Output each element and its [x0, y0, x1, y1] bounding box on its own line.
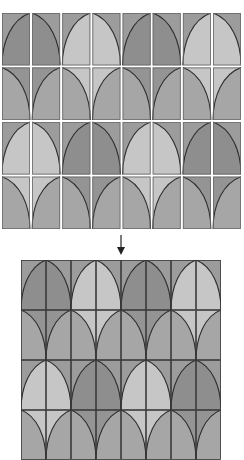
tile-sl-light	[71, 310, 96, 360]
tile-sr-light	[213, 68, 241, 120]
tile-sl-light	[121, 410, 146, 460]
tile-sl-dark	[121, 310, 146, 360]
tile-sr-dark	[92, 177, 120, 229]
tile-sl-dark	[2, 68, 30, 120]
tile-l-light	[183, 13, 211, 65]
tile-r-dark	[92, 122, 120, 174]
tile-l-light	[2, 122, 30, 174]
tile-l-light	[121, 360, 146, 410]
tile-l-light	[171, 260, 196, 310]
tile-sl-dark	[171, 410, 196, 460]
tile-r-dark	[196, 360, 221, 410]
tile-l-dark	[62, 122, 90, 174]
tile-sr-dark	[32, 68, 60, 120]
tile-sr-light	[153, 177, 181, 229]
tile-sl-dark	[71, 410, 96, 460]
down-arrow-icon	[114, 234, 128, 256]
tile-r-light	[92, 13, 120, 65]
tile-l-dark	[171, 360, 196, 410]
tile-sr-light	[196, 310, 221, 360]
tile-sl-dark	[21, 310, 46, 360]
tile-r-light	[213, 13, 241, 65]
tile-sr-light	[32, 177, 60, 229]
tile-r-dark	[96, 360, 121, 410]
tile-l-dark	[121, 260, 146, 310]
tile-sr-dark	[153, 68, 181, 120]
tile-sr-dark	[213, 177, 241, 229]
tile-sl-light	[171, 310, 196, 360]
tile-r-dark	[213, 122, 241, 174]
tile-sr-dark	[46, 310, 71, 360]
tile-sr-light	[96, 310, 121, 360]
tile-sr-dark	[146, 310, 171, 360]
tile-r-light	[96, 260, 121, 310]
tile-l-light	[123, 122, 151, 174]
tile-r-light	[32, 122, 60, 174]
tile-r-light	[46, 360, 71, 410]
tile-l-light	[62, 13, 90, 65]
tile-r-dark	[153, 13, 181, 65]
tile-sl-light	[123, 177, 151, 229]
tile-l-dark	[123, 13, 151, 65]
tile-l-dark	[183, 122, 211, 174]
tile-r-light	[153, 122, 181, 174]
tile-l-dark	[71, 360, 96, 410]
tile-sl-dark	[123, 68, 151, 120]
tile-sr-light	[46, 410, 71, 460]
tile-r-dark	[46, 260, 71, 310]
tile-l-dark	[21, 260, 46, 310]
tile-sl-light	[183, 68, 211, 120]
tile-sl-light	[2, 177, 30, 229]
tile-sr-light	[146, 410, 171, 460]
tile-sr-dark	[96, 410, 121, 460]
tile-r-light	[146, 360, 171, 410]
tile-sl-dark	[183, 177, 211, 229]
tile-sl-light	[21, 410, 46, 460]
tile-l-light	[71, 260, 96, 310]
separated-tiles-grid	[2, 13, 241, 229]
tile-r-dark	[146, 260, 171, 310]
tile-sl-dark	[62, 177, 90, 229]
tile-sl-light	[62, 68, 90, 120]
assembled-pattern-grid	[21, 260, 221, 460]
tile-r-light	[196, 260, 221, 310]
tile-l-light	[21, 360, 46, 410]
tile-sr-dark	[196, 410, 221, 460]
tile-r-dark	[32, 13, 60, 65]
tile-l-dark	[2, 13, 30, 65]
tile-sr-light	[92, 68, 120, 120]
